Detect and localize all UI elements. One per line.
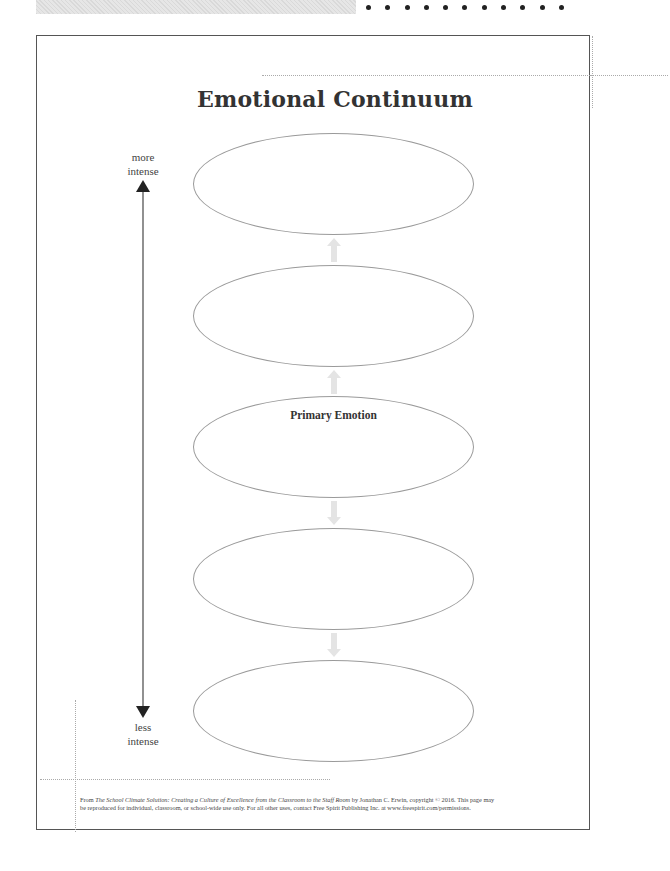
footer-line1-rest: by Jonathan C. Erwin, copyright © 2016. …	[350, 796, 494, 803]
axis-top-line2: intense	[103, 164, 183, 178]
up-arrow-icon	[327, 370, 341, 394]
axis-bottom-line1: less	[103, 720, 183, 734]
down-arrow-icon	[327, 501, 341, 525]
dotted-guide-top	[262, 75, 590, 76]
axis-label-more-intense: more intense	[103, 150, 183, 178]
down-arrow-icon	[327, 633, 341, 657]
up-arrow-icon	[327, 238, 341, 262]
intensity-axis-arrow-icon	[130, 178, 156, 718]
footer-line-1: From The School Climate Solution: Creati…	[80, 796, 590, 804]
emotion-ellipse-4[interactable]	[193, 528, 474, 630]
dotted-guide-left	[75, 700, 76, 832]
emotion-ellipse-2[interactable]	[193, 265, 474, 367]
footer-book-title: The School Climate Solution: Creating a …	[95, 796, 350, 803]
copyright-footer: From The School Climate Solution: Creati…	[80, 796, 590, 812]
primary-emotion-label: Primary Emotion	[194, 409, 473, 421]
axis-label-less-intense: less intense	[103, 720, 183, 748]
emotion-ellipse-primary[interactable]: Primary Emotion	[193, 396, 474, 498]
dotted-guide-top-right-ext	[590, 75, 668, 76]
footer-prefix: From	[80, 796, 95, 803]
emotion-ellipse-1[interactable]	[193, 133, 474, 235]
axis-top-line1: more	[103, 150, 183, 164]
header-dot-row	[366, 2, 670, 14]
dotted-guide-bottom	[40, 779, 330, 780]
page-title: Emotional Continuum	[0, 86, 670, 112]
emotion-ellipse-5[interactable]	[193, 660, 474, 762]
header-pattern-band	[36, 0, 356, 14]
axis-bottom-line2: intense	[103, 734, 183, 748]
footer-line-2: be reproduced for individual, classroom,…	[80, 804, 590, 812]
